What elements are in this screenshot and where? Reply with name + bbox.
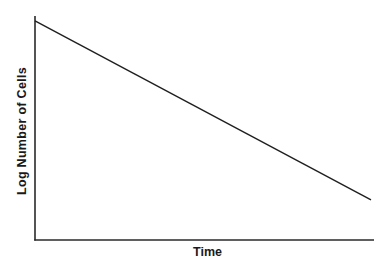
- plot-area: [34, 16, 374, 241]
- y-axis-title: Log Number of Cells: [15, 67, 29, 195]
- x-axis-title: Time: [193, 245, 222, 259]
- line-chart: [0, 0, 390, 273]
- data-series-line: [35, 21, 371, 200]
